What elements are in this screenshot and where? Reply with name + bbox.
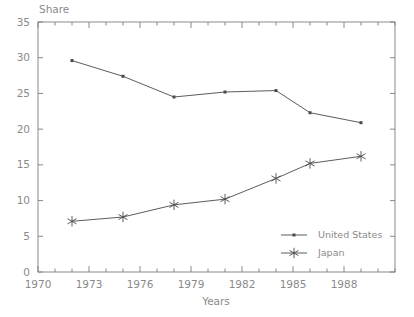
y-tick-label: 0 [23,266,30,278]
series-united-states [71,59,363,124]
x-tick-label: 1979 [178,278,205,290]
x-tick-label: 1982 [229,278,256,290]
legend-label: Japan [317,247,345,258]
legend-item: United States [281,229,382,240]
series-japan [67,151,365,226]
legend-item: Japan [281,247,345,258]
x-axis-title: Years [201,295,230,307]
y-tick-label: 5 [23,230,30,242]
x-tick-label: 1985 [280,278,307,290]
chart-legend: United StatesJapan [281,229,382,258]
y-tick-label: 10 [17,194,30,206]
line-chart: 05101520253035 1970197319761979198219851… [0,0,414,317]
x-tick-label: 1970 [25,278,52,290]
x-tick-label: 1988 [331,278,358,290]
y-tick-label: 30 [17,51,30,63]
x-tick-label: 1976 [127,278,154,290]
y-tick-label: 15 [17,158,30,170]
y-tick-label: 25 [17,87,30,99]
y-tick-label: 20 [17,123,30,135]
x-tick-label: 1973 [76,278,103,290]
data-series-group [67,59,365,226]
legend-label: United States [318,229,382,240]
chart-canvas: 05101520253035 1970197319761979198219851… [0,0,414,317]
y-tick-label: 35 [17,16,30,28]
y-axis-title: Share [39,3,69,15]
